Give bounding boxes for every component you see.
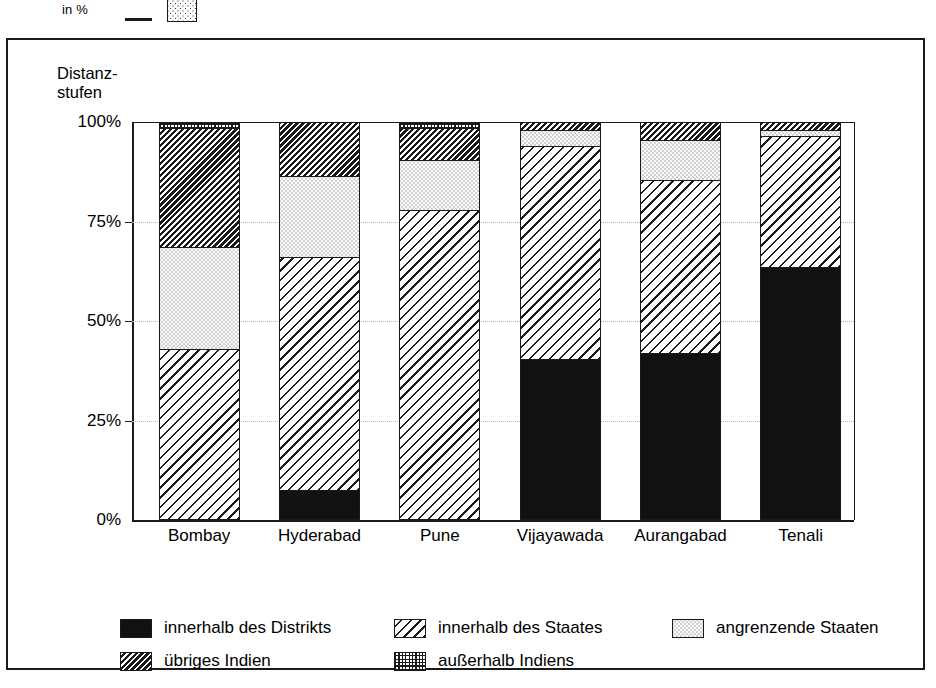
legend-row: innerhalb des Distriktsinnerhalb des Sta… <box>120 618 910 648</box>
bar-segment[interactable] <box>399 122 480 128</box>
bar-segment[interactable] <box>640 353 721 520</box>
bar-segment[interactable] <box>640 140 721 180</box>
tick-mark <box>125 421 132 422</box>
legend-item[interactable]: außerhalb Indiens <box>394 651 574 671</box>
bar-segment[interactable] <box>399 128 480 160</box>
bar-segment[interactable] <box>760 122 841 130</box>
dotted-swatch-icon <box>167 0 197 22</box>
bar-group[interactable] <box>399 122 480 520</box>
legend-label: angrenzende Staaten <box>716 618 879 638</box>
bar-segment[interactable] <box>279 490 360 520</box>
y-tick-label: 0% <box>96 510 121 530</box>
bar-segment[interactable] <box>520 146 601 359</box>
y-tick-label: 100% <box>78 112 121 132</box>
y-axis-caption: Distanz- stufen <box>57 64 118 102</box>
top-legend-remnant-strip: in % <box>0 0 936 34</box>
legend-label: innerhalb des Staates <box>438 618 602 638</box>
tick-mark <box>125 222 132 223</box>
bar-segment[interactable] <box>159 349 240 520</box>
bar-segment[interactable] <box>159 128 240 247</box>
bar-segment[interactable] <box>399 160 480 210</box>
tick-mark <box>125 321 132 322</box>
gridline <box>132 222 854 223</box>
x-axis-line <box>132 520 854 522</box>
y-tick-label: 25% <box>87 411 121 431</box>
legend-swatch-icon <box>120 619 152 638</box>
legend-item[interactable]: innerhalb des Distrikts <box>120 618 331 638</box>
bar-segment[interactable] <box>279 122 360 176</box>
bar-segment[interactable] <box>279 176 360 258</box>
bar-group[interactable] <box>279 122 360 520</box>
x-axis-label: Bombay <box>139 526 259 546</box>
bar-segment[interactable] <box>640 122 721 140</box>
x-axis-label: Pune <box>380 526 500 546</box>
unit-label: in % <box>62 2 88 17</box>
legend-row: übriges Indienaußerhalb Indiens <box>120 651 910 681</box>
x-axis-label: Tenali <box>741 526 861 546</box>
bar-segment[interactable] <box>760 130 841 136</box>
bar-group[interactable] <box>159 122 240 520</box>
legend-label: außerhalb Indiens <box>438 651 574 671</box>
legend-item[interactable]: angrenzende Staaten <box>672 618 879 638</box>
x-axis-label: Aurangabad <box>620 526 740 546</box>
legend-item[interactable]: übriges Indien <box>120 651 271 671</box>
gridline <box>132 421 854 422</box>
bar-segment[interactable] <box>520 122 601 130</box>
bar-segment[interactable] <box>760 267 841 520</box>
plot-area: 0%25%50%75%100% BombayHyderabadPuneVijay… <box>132 122 854 520</box>
x-axis-label: Vijayawada <box>500 526 620 546</box>
plot-right-edge <box>854 122 855 520</box>
y-tick-label: 50% <box>87 311 121 331</box>
bar-segment[interactable] <box>159 247 240 348</box>
figure-frame: Distanz- stufen 0%25%50%75%100% BombayHy… <box>6 38 925 670</box>
legend-label: innerhalb des Distrikts <box>164 618 331 638</box>
legend-swatch-icon <box>120 652 152 671</box>
bar-segment[interactable] <box>640 180 721 353</box>
bar-group[interactable] <box>760 122 841 520</box>
y-tick-label: 75% <box>87 212 121 232</box>
x-axis-label: Hyderabad <box>259 526 379 546</box>
bar-segment[interactable] <box>399 210 480 520</box>
bar-segment[interactable] <box>760 136 841 267</box>
legend-swatch-icon <box>394 619 426 638</box>
plot-top-rule <box>132 122 854 123</box>
legend-swatch-icon <box>672 619 704 638</box>
bar-group[interactable] <box>520 122 601 520</box>
bar-group[interactable] <box>640 122 721 520</box>
bar-segment[interactable] <box>520 130 601 146</box>
bar-segment[interactable] <box>520 359 601 520</box>
legend-label: übriges Indien <box>164 651 271 671</box>
gridline <box>132 321 854 322</box>
legend-swatch-icon <box>394 652 426 671</box>
bar-segment[interactable] <box>159 122 240 128</box>
line-swatch-icon <box>125 18 152 21</box>
legend-item[interactable]: innerhalb des Staates <box>394 618 602 638</box>
bar-segment[interactable] <box>279 257 360 490</box>
